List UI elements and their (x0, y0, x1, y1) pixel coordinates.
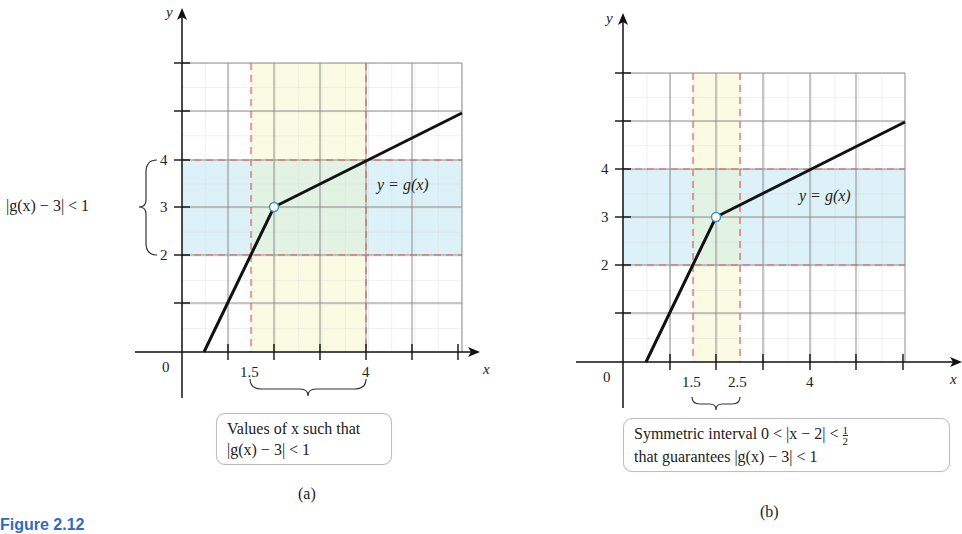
panel-a-y-axis-label: y (164, 4, 173, 20)
panel-a-x-axis-label: x (482, 361, 490, 377)
panel-a-curve-label: y = g(x) (375, 176, 429, 194)
panel-b-box-line2: that guarantees |g(x) − 3| < 1 (634, 446, 939, 467)
panel-a-x-tick-4: 4 (362, 364, 370, 380)
panel-b-caption: (b) (760, 503, 779, 521)
panel-b-y-tick-2: 2 (601, 257, 609, 273)
panel-b-y-axis-label: y (604, 10, 613, 26)
panel-b-x-brace (692, 397, 740, 410)
panel-b-x-tick-2-5: 2.5 (728, 374, 747, 390)
panel-b-y-tick-4: 4 (601, 161, 609, 177)
panel-a-y-brace (139, 160, 157, 255)
panel-b-curve-label: y = g(x) (797, 187, 851, 205)
panel-b-x-axis-label: x (949, 371, 957, 387)
panel-a-caption: (a) (298, 485, 316, 503)
panel-b-box-fraction: 1 2 (843, 425, 849, 446)
panel-a-y-tick-2: 2 (160, 247, 168, 263)
panel-b-x-tick-4: 4 (806, 374, 814, 390)
panel-a-y-tick-3: 3 (160, 199, 168, 215)
panel-a-box-line2: |g(x) − 3| < 1 (227, 439, 381, 460)
panel-b-box-line1-text: Symmetric interval 0 < |x − 2| < (634, 425, 843, 442)
panel-a-origin-label: 0 (162, 359, 170, 375)
fraction-denominator: 2 (843, 436, 849, 446)
panel-b-box-line1: Symmetric interval 0 < |x − 2| < 1 2 (634, 423, 939, 446)
panel-a-box-line1: Values of x such that (227, 418, 381, 439)
panel-b-plot (576, 15, 960, 410)
panel-b-annotation-box: Symmetric interval 0 < |x − 2| < 1 2 tha… (623, 418, 950, 472)
panel-a-plot (135, 10, 478, 398)
figure-label: Figure 2.12 (0, 516, 84, 534)
panel-a-open-point (270, 203, 279, 212)
panel-a-y-tick-4: 4 (160, 152, 168, 168)
panel-b-open-point (712, 213, 721, 222)
panel-a-x-tick-1-5: 1.5 (240, 364, 259, 380)
panel-b-x-tick-1-5: 1.5 (682, 374, 701, 390)
panel-a-side-label: |g(x) − 3| < 1 (6, 197, 89, 215)
panel-a-x-brace (250, 379, 366, 396)
panel-a-annotation-box: Values of x such that |g(x) − 3| < 1 (216, 413, 392, 465)
panel-b-y-tick-3: 3 (601, 209, 609, 225)
panel-b-origin-label: 0 (603, 369, 611, 385)
